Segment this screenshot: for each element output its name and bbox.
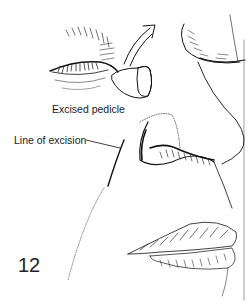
closed-eye-drawing xyxy=(50,27,118,90)
figure-number: 12 xyxy=(18,254,40,277)
excised-pedicle-drawing xyxy=(112,66,152,98)
line-of-excision-label: Line of excision xyxy=(14,134,86,146)
medical-illustration: Excised pedicle Line of excision 12 xyxy=(0,0,252,308)
arrow-icon xyxy=(124,25,155,66)
excised-pedicle-label: Excised pedicle xyxy=(52,103,125,115)
excision-line-drawing xyxy=(68,140,124,280)
right-eye-drawing xyxy=(181,15,245,63)
lips-drawing xyxy=(128,222,237,296)
